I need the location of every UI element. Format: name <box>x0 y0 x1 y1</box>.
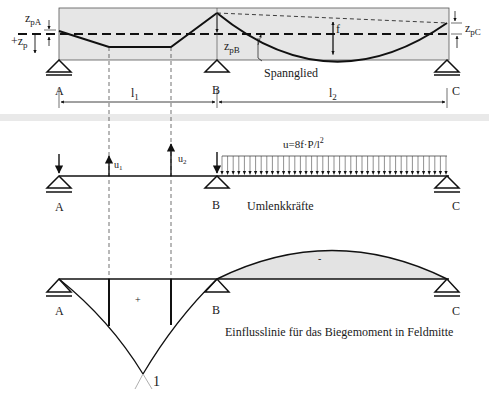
distributed-load-icon <box>220 156 447 175</box>
influence-curve-right <box>143 279 217 374</box>
caption-deviation-forces: Umlenkkräfte <box>247 199 314 213</box>
label-zp: +z <box>11 34 23 48</box>
support-A-icon <box>46 279 72 296</box>
label-support-A: A <box>55 304 64 318</box>
section-influence-line: + - 1 A B C Einflusslinie für das Biegem… <box>46 251 460 390</box>
label-positive-sign: + <box>135 294 141 305</box>
svg-text:l2: l2 <box>329 86 337 102</box>
label-support-C: C <box>452 304 460 318</box>
support-B-icon <box>205 60 229 72</box>
support-A-icon <box>46 176 72 192</box>
section-tendon-layout: zpA +zp zpB f Spannglied zpC <box>11 8 481 108</box>
label-support-B: B <box>212 303 220 317</box>
svg-text:+zp: +zp <box>11 34 28 50</box>
label-support-B: B <box>212 198 220 212</box>
svg-text:u1: u1 <box>114 159 123 172</box>
support-C-icon <box>434 60 460 75</box>
caption-influence-line: Einflusslinie für das Biegemoment in Fel… <box>225 325 453 339</box>
label-support-A: A <box>55 84 64 98</box>
section-deviation-forces: u1 u2 u=8f·P/l2 A B C Umlenkkräfte <box>46 136 460 214</box>
label-unit-ordinate: 1 <box>153 374 160 389</box>
svg-text:l1: l1 <box>131 86 139 102</box>
label-support-A: A <box>55 200 64 214</box>
svg-text:zpC: zpC <box>465 21 481 37</box>
label-support-C: C <box>452 199 460 213</box>
support-B-icon <box>205 279 229 292</box>
svg-text:u2: u2 <box>178 153 187 166</box>
prestressed-beam-diagram: zpA +zp zpB f Spannglied zpC <box>0 0 489 403</box>
label-support-C: C <box>452 84 460 98</box>
label-f: f <box>336 22 340 36</box>
influence-curve-left <box>59 279 143 374</box>
support-B-icon <box>205 176 229 188</box>
support-A-icon <box>46 60 72 75</box>
svg-text:u=8f·P/l2: u=8f·P/l2 <box>283 136 324 150</box>
label-negative-sign: - <box>318 253 321 264</box>
label-support-B: B <box>212 83 220 97</box>
support-C-icon <box>434 279 460 296</box>
support-C-icon <box>434 176 460 192</box>
label-load-formula: u=8f·P/l <box>283 138 320 150</box>
svg-text:zpA: zpA <box>25 11 42 27</box>
section-separator <box>0 114 489 121</box>
label-tendon: Spannglied <box>264 66 318 80</box>
